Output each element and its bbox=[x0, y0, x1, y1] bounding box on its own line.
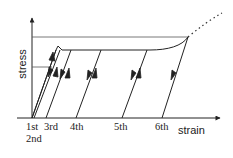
arrow-down-icon bbox=[131, 70, 136, 80]
cycle-label-3rd: 3rd bbox=[44, 121, 59, 132]
arrow-up-icon bbox=[136, 68, 141, 78]
x-axis-label: strain bbox=[178, 124, 205, 136]
cycle-label-6th: 6th bbox=[155, 121, 169, 132]
cycle-label-2nd: 2nd bbox=[26, 133, 43, 144]
arrow-down-icon bbox=[87, 70, 92, 80]
cycle-label-4th: 4th bbox=[70, 121, 84, 132]
unload-line-2nd bbox=[34, 50, 60, 118]
arrow-up-icon bbox=[53, 67, 58, 77]
unload-line-4th bbox=[76, 50, 101, 118]
arrow-down-icon bbox=[171, 70, 176, 80]
direction-arrows bbox=[48, 52, 176, 80]
stress-strain-diagram: stress strain 1st 2nd 3rd 4th 5th 6th bbox=[0, 0, 233, 158]
unload-line-5th bbox=[122, 50, 147, 118]
arrow-down-icon bbox=[60, 69, 65, 79]
arrow-up-icon bbox=[49, 52, 55, 61]
cycle-label-1st: 1st bbox=[26, 121, 38, 132]
arrow-up-icon bbox=[65, 68, 70, 78]
cycle-label-5th: 5th bbox=[114, 121, 128, 132]
dashed-continuation bbox=[188, 13, 222, 37]
envelope-curve bbox=[32, 37, 188, 118]
y-axis-label: stress bbox=[16, 49, 28, 79]
